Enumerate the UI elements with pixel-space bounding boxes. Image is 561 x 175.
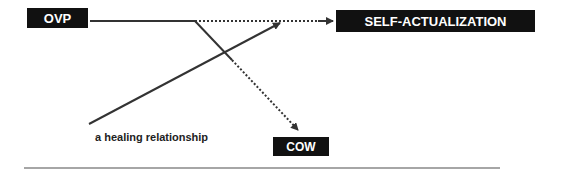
cow-box: COW <box>273 137 329 156</box>
ovp-label: OVP <box>44 11 71 26</box>
self-actualization-label: SELF-ACTUALIZATION <box>364 14 506 29</box>
cow-label: COW <box>286 140 315 154</box>
healing-relationship-label: a healing relationship <box>95 131 208 143</box>
diagonal-dotted-to-cow <box>232 60 298 130</box>
diagonal-solid <box>195 21 232 60</box>
ovp-box: OVP <box>27 8 88 28</box>
healing-arrow <box>89 23 280 124</box>
self-actualization-box: SELF-ACTUALIZATION <box>336 10 535 32</box>
